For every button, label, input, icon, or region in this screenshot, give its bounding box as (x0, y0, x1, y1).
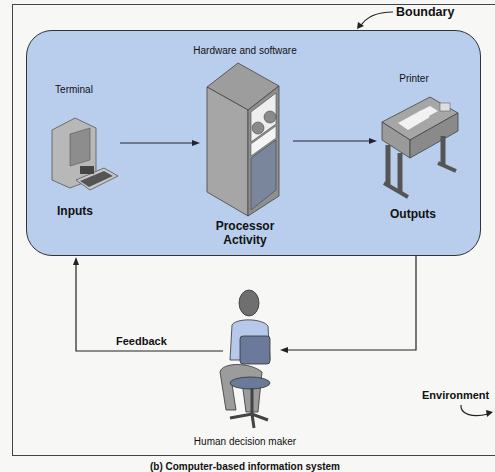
activity-label: Activity (223, 233, 266, 247)
outputs-label: Outputs (390, 207, 436, 221)
human-decision-maker-label: Human decision maker (194, 436, 296, 447)
processor-label: Processor (216, 219, 275, 233)
human-decision-maker-icon (220, 290, 270, 428)
terminal-icon (52, 118, 118, 190)
processor-cabinet-icon (207, 63, 279, 216)
output-to-human-arrow (280, 256, 416, 353)
terminal-label: Terminal (55, 84, 93, 95)
inputs-label: Inputs (57, 204, 93, 218)
feedback-label: Feedback (116, 335, 167, 347)
environment-pointer-arrow (461, 405, 493, 417)
environment-label: Environment (422, 389, 489, 401)
processor-to-output-arrow (293, 138, 377, 144)
figure-caption: (b) Computer-based information system (150, 461, 340, 472)
printer-icon (382, 97, 458, 197)
input-to-processor-arrow (120, 140, 200, 146)
boundary-label: Boundary (396, 5, 454, 19)
hardware-software-label: Hardware and software (193, 45, 296, 56)
boundary-pointer-arrow (357, 12, 393, 29)
printer-label: Printer (399, 73, 428, 84)
